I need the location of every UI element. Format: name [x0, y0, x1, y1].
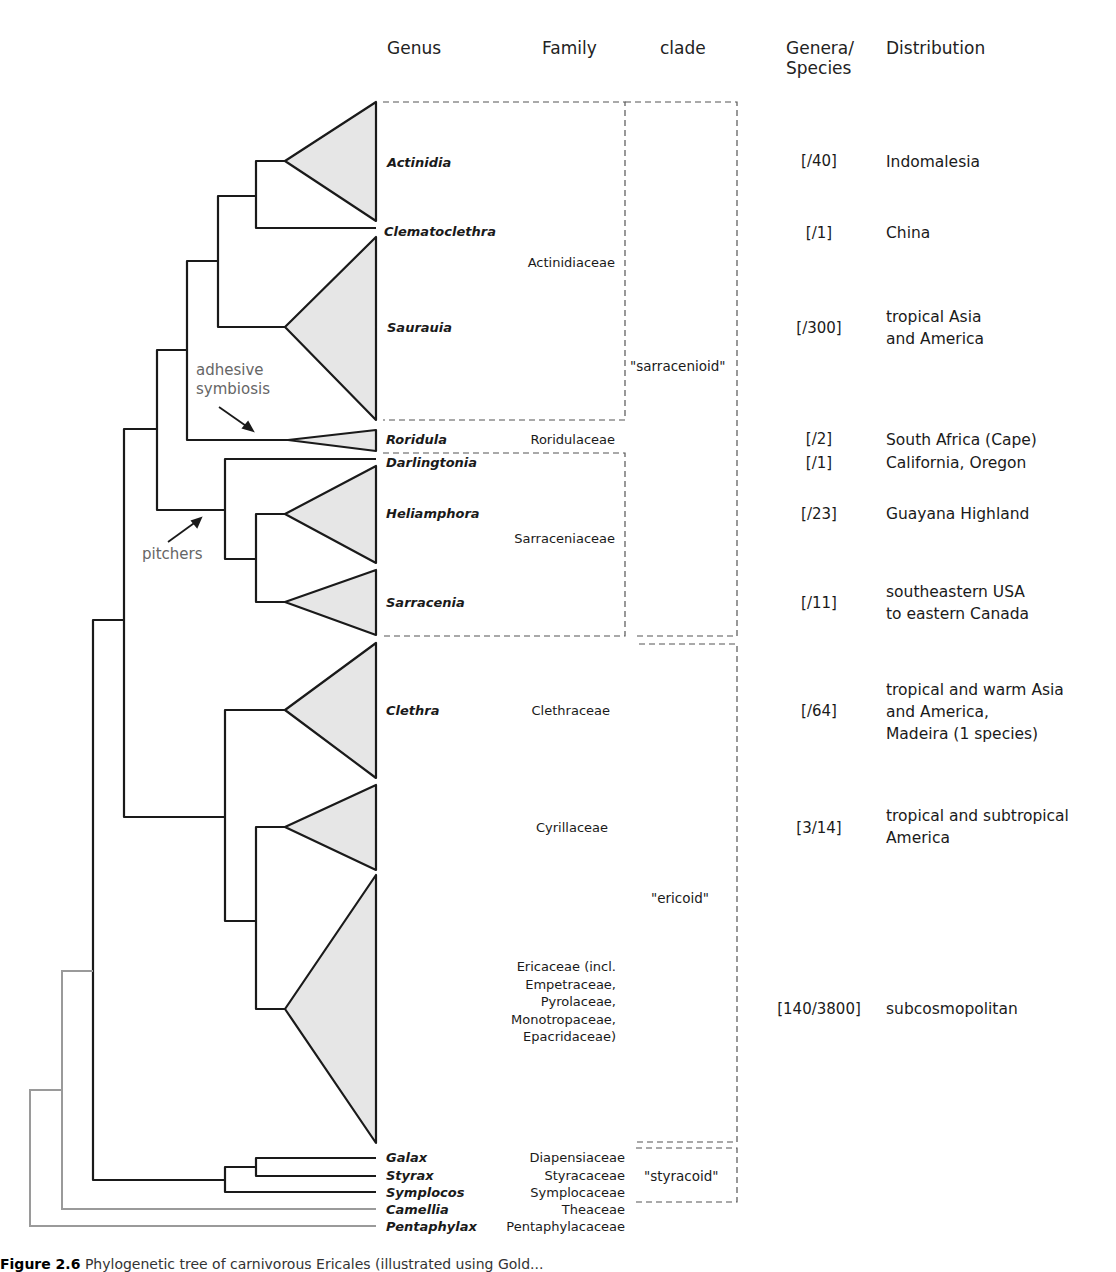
- clade-styracoid: "styracoid": [644, 1168, 719, 1184]
- header-genera-species: Genera/ Species: [786, 38, 854, 78]
- dist-clethra: tropical and warm Asia and America, Made…: [886, 679, 1064, 745]
- count-clethra: [/64]: [774, 703, 864, 719]
- count-ericaceae: [140/3800]: [774, 1001, 864, 1017]
- clade-ericoid: "ericoid": [651, 890, 709, 906]
- count-sarracenia: [/11]: [774, 595, 864, 611]
- count-saurauia: [/300]: [774, 320, 864, 336]
- genus-darlingtonia: Darlingtonia: [386, 455, 477, 471]
- family-styracaceae: Styracaceae: [544, 1168, 625, 1184]
- genus-symplocos: Symplocos: [386, 1185, 464, 1201]
- genus-heliamphora: Heliamphora: [386, 506, 480, 522]
- genus-galax: Galax: [386, 1150, 427, 1166]
- count-darlingtonia: [/1]: [774, 455, 864, 471]
- genus-clethra: Clethra: [386, 703, 439, 719]
- clade-triangle-roridula: [288, 430, 376, 451]
- header-distribution: Distribution: [886, 38, 985, 58]
- count-clematoclethra: [/1]: [774, 225, 864, 241]
- dist-sarracenia: southeastern USA to eastern Canada: [886, 581, 1029, 625]
- figure-caption: Figure 2.6 Phylogenetic tree of carnivor…: [0, 1256, 543, 1272]
- header-genus: Genus: [387, 38, 441, 58]
- dist-cyrillaceae: tropical and subtropical America: [886, 805, 1069, 849]
- genus-saurauia: Saurauia: [387, 320, 452, 336]
- annotation-pitchers: pitchers: [142, 545, 203, 564]
- family-cyrillaceae: Cyrillaceae: [536, 820, 608, 836]
- family-ericaceae: Ericaceae (incl. Empetraceae, Pyrolaceae…: [511, 958, 616, 1046]
- dist-saurauia: tropical Asia and America: [886, 306, 984, 350]
- branch-core-ericales: [93, 620, 225, 1180]
- count-heliamphora: [/23]: [774, 506, 864, 522]
- family-roridulaceae: Roridulaceae: [530, 432, 615, 448]
- clade-triangle-saurauia: [285, 237, 376, 420]
- dist-clematoclethra: China: [886, 222, 930, 244]
- branch-sarracenioid-ericoid: [124, 429, 225, 817]
- caption-label: Figure 2.6: [0, 1256, 80, 1272]
- branch-galax-styrax: [256, 1158, 376, 1176]
- clade-triangle-heliamphora: [285, 466, 376, 563]
- branch-cyrilla-ericaceae: [256, 827, 285, 1009]
- genus-clematoclethra: Clematoclethra: [384, 224, 496, 240]
- count-roridula: [/2]: [774, 431, 864, 447]
- family-theaceae: Theaceae: [562, 1202, 625, 1218]
- genus-roridula: Roridula: [386, 432, 447, 448]
- clade-sarracenioid: "sarracenioid": [630, 358, 725, 374]
- family-symplocaceae: Symplocaceae: [530, 1185, 625, 1201]
- clade-triangle-sarracenia: [285, 570, 376, 635]
- family-diapensiaceae: Diapensiaceae: [529, 1150, 625, 1166]
- arrow-head-pitchers: [192, 518, 201, 527]
- branch-styracoid: [225, 1167, 376, 1192]
- header-clade: clade: [660, 38, 706, 58]
- family-sarraceniaceae: Sarraceniaceae: [514, 531, 615, 547]
- annotation-adhesive-symbiosis: adhesive symbiosis: [196, 361, 270, 399]
- genus-pentaphylax: Pentaphylax: [386, 1219, 477, 1235]
- branch-actinidiaceae-roridula: [187, 261, 288, 440]
- genus-camellia: Camellia: [386, 1202, 449, 1218]
- dist-actinidia: Indomalesia: [886, 151, 980, 173]
- dist-roridula: South Africa (Cape): [886, 429, 1037, 451]
- clade-triangle-clethra: [285, 643, 376, 778]
- family-actinidiaceae: Actinidiaceae: [528, 255, 615, 271]
- genus-sarracenia: Sarracenia: [386, 595, 465, 611]
- branch-heliamphora-sarracenia: [256, 514, 285, 602]
- dist-darlingtonia: California, Oregon: [886, 452, 1026, 474]
- count-cyrillaceae: [3/14]: [774, 820, 864, 836]
- clade-triangle-ericaceae: [285, 875, 376, 1143]
- genus-styrax: Styrax: [386, 1168, 434, 1184]
- caption-text: Phylogenetic tree of carnivorous Ericale…: [85, 1256, 544, 1272]
- branch-actinidiaceae: [218, 196, 285, 327]
- family-clethraceae: Clethraceae: [532, 703, 610, 719]
- dist-heliamphora: Guayana Highland: [886, 503, 1029, 525]
- clade-triangle-cyrillaceae: [285, 785, 376, 870]
- arrow-head-adhesive: [243, 422, 253, 431]
- genus-actinidia: Actinidia: [387, 155, 451, 171]
- dist-ericaceae: subcosmopolitan: [886, 998, 1018, 1020]
- family-pentaphylacaceae: Pentaphylacaceae: [506, 1219, 625, 1235]
- clade-triangle-actinidia: [285, 102, 376, 221]
- header-family: Family: [542, 38, 597, 58]
- count-actinidia: [/40]: [774, 153, 864, 169]
